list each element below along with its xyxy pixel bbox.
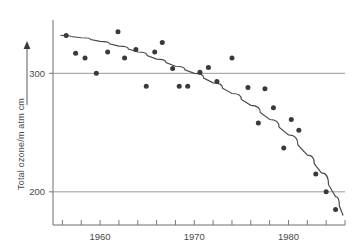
data-point: [256, 121, 261, 126]
data-point: [197, 70, 202, 75]
y-axis-title: Total ozone/m atm cm: [16, 98, 26, 190]
data-point: [206, 65, 211, 70]
chart-canvas: 196019701980 300200 Total ozone/m atm cm: [0, 0, 360, 252]
data-point: [94, 71, 99, 76]
y-axis-label-group: 300200: [29, 68, 45, 197]
data-point: [115, 29, 120, 34]
fitted-trend-curve: [61, 35, 344, 215]
data-point: [160, 40, 165, 45]
y-axis-arrow-head: [24, 41, 31, 49]
data-point: [245, 85, 250, 90]
y-axis-tick-group: [49, 73, 53, 191]
data-point: [144, 84, 149, 89]
data-point: [324, 189, 329, 194]
data-point: [64, 33, 69, 38]
data-point: [152, 49, 157, 54]
x-axis-tick-group: [62, 220, 345, 225]
x-axis-label-group: 196019701980: [90, 231, 300, 242]
data-point: [214, 79, 219, 84]
data-point: [296, 128, 301, 133]
x-tick-label-1970: 1970: [184, 231, 205, 242]
data-point: [133, 47, 138, 52]
data-point: [271, 105, 276, 110]
x-tick-label-1980: 1980: [278, 231, 299, 242]
data-point-group: [64, 29, 338, 212]
data-point: [281, 145, 286, 150]
data-point: [313, 172, 318, 177]
gridline-group: [53, 73, 345, 191]
data-point: [170, 66, 175, 71]
data-point: [289, 117, 294, 122]
x-tick-label-1960: 1960: [90, 231, 111, 242]
ozone-chart: 196019701980 300200 Total ozone/m atm cm: [0, 0, 360, 252]
data-point: [333, 207, 338, 212]
y-tick-label-300: 300: [29, 68, 45, 79]
data-point: [83, 55, 88, 60]
data-point: [262, 86, 267, 91]
data-point: [185, 84, 190, 89]
data-point: [177, 84, 182, 89]
data-point: [122, 55, 127, 60]
data-point: [105, 49, 110, 54]
data-point: [73, 51, 78, 56]
data-point: [229, 55, 234, 60]
y-tick-label-200: 200: [29, 186, 45, 197]
